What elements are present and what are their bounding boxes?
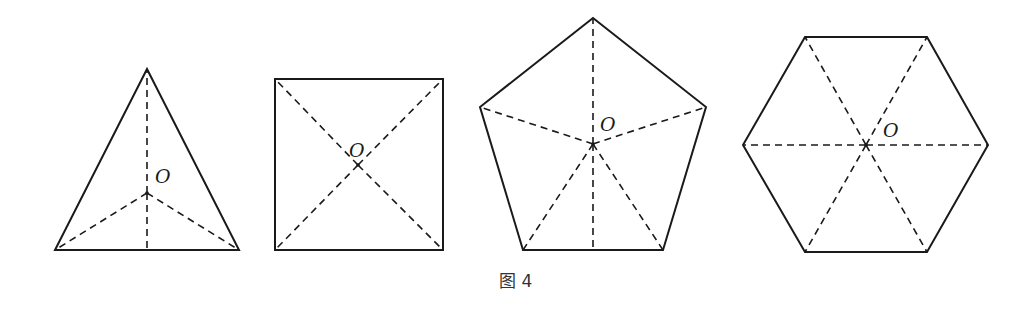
regular-hexagon: O bbox=[743, 37, 988, 252]
center-to-vertex-line bbox=[805, 145, 866, 252]
polygon-group: OOOO bbox=[55, 18, 988, 252]
center-point bbox=[864, 143, 868, 147]
center-to-vertex-line bbox=[480, 107, 593, 144]
center-to-vertex-line bbox=[358, 165, 443, 250]
center-to-vertex-line bbox=[593, 144, 663, 250]
center-to-vertex-line bbox=[805, 37, 866, 145]
figure-canvas: OOOO 图 4 bbox=[0, 0, 1029, 310]
regular-pentagon-outline bbox=[480, 18, 706, 250]
center-label: O bbox=[349, 139, 365, 161]
center-point bbox=[145, 191, 149, 195]
center-to-vertex-line bbox=[275, 165, 358, 250]
center-to-vertex-line bbox=[358, 79, 443, 165]
center-label: O bbox=[883, 119, 899, 141]
center-label: O bbox=[155, 165, 171, 187]
center-to-vertex-line bbox=[523, 144, 593, 250]
equilateral-triangle: O bbox=[55, 69, 239, 250]
square: O bbox=[275, 79, 443, 250]
center-point bbox=[356, 163, 360, 167]
center-to-vertex-line bbox=[275, 79, 358, 165]
figure-caption: 图 4 bbox=[499, 271, 532, 291]
center-to-vertex-line bbox=[866, 145, 927, 252]
regular-pentagon: O bbox=[480, 18, 706, 250]
center-label: O bbox=[600, 113, 616, 135]
center-point bbox=[591, 142, 595, 146]
